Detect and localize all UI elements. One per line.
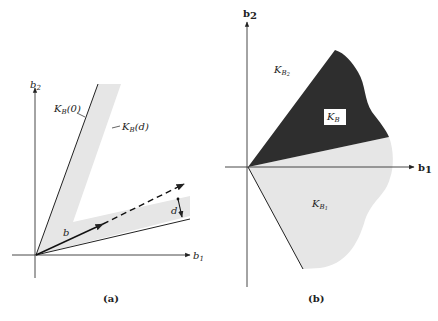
b1-axis-label-b: b1 xyxy=(418,162,432,175)
caption-b: (b) xyxy=(308,293,324,304)
b2-axis-label-b: b2 xyxy=(243,8,257,21)
distance-d-dot xyxy=(177,198,180,201)
kb0-label: KB(0) xyxy=(53,103,81,116)
vector-b-label: b xyxy=(63,227,69,238)
kb2-label: KB2 xyxy=(273,64,290,77)
panel-b: b2 b1 KB2 KB KB1 (b) xyxy=(225,8,432,304)
b1-axis-label-a: b1 xyxy=(193,250,204,263)
b2-axis-label-a: b2 xyxy=(30,79,41,92)
kbd-label: KB(d) xyxy=(121,121,149,134)
caption-a: (a) xyxy=(103,293,119,304)
kbd-leader xyxy=(112,126,120,128)
figure-canvas: b2 b1 KB(0) KB(d) b d (a) b2 b1 xyxy=(0,0,438,321)
distance-d-label: d xyxy=(171,205,177,216)
panel-a: b2 b1 KB(0) KB(d) b d (a) xyxy=(12,79,204,304)
